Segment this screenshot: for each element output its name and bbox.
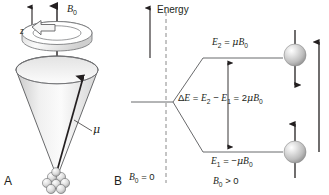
- figure-root: z B0 μ A Energy E2 = μB0 ΔE = E2 − E1 = …: [0, 0, 329, 195]
- nucleus-cluster: [42, 168, 69, 194]
- panel-b-letter: B: [114, 175, 122, 187]
- precession-ring: [22, 22, 92, 52]
- panel-a-artwork: [16, 6, 98, 194]
- figure-artwork: [0, 0, 329, 195]
- b0-label-panel-a: B0: [67, 4, 77, 16]
- panel-a-letter: A: [4, 175, 12, 187]
- field-on-label: B0 > 0: [213, 176, 239, 189]
- z-axis-label: z: [20, 26, 24, 37]
- splitting-label: ΔE = E2 − E1 = 2μB0: [178, 93, 263, 106]
- upper-level-label: E2 = μB0: [212, 37, 248, 50]
- mu-label: μ: [93, 124, 100, 135]
- lower-spin-sphere-group: [284, 124, 306, 178]
- zero-field-label: B0 = 0: [129, 172, 155, 185]
- energy-axis-label: Energy: [157, 5, 189, 15]
- precession-cone: [16, 56, 98, 172]
- upper-spin-sphere-group: [284, 30, 306, 85]
- spin-down-sphere: [284, 44, 306, 66]
- lower-level-label: E1 = −μB0: [211, 156, 253, 169]
- spin-up-sphere: [284, 141, 306, 163]
